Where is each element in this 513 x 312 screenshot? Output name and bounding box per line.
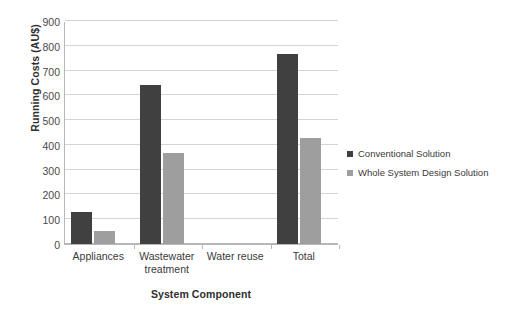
legend-item[interactable]: Conventional Solution [347,145,511,162]
y-axis-tick-label: 200 [26,190,60,201]
bar[interactable] [94,231,115,244]
x-axis-category-label: Wastewatertreatment [133,250,202,276]
bar-group [202,22,271,244]
y-axis-tick-label: 400 [26,141,60,152]
gridline [65,20,338,21]
y-axis-tick-label: 800 [26,42,60,53]
y-axis-tick-label: 900 [26,17,60,28]
y-axis-tick-label: 600 [26,91,60,102]
legend-item[interactable]: Whole System Design Solution [347,164,511,181]
x-axis-category-labels: AppliancesWastewatertreatmentWater reuse… [64,250,338,290]
x-axis-tick [339,245,340,249]
bar[interactable] [277,54,298,244]
bar-group [134,22,203,244]
chart-legend: Conventional SolutionWhole System Design… [347,145,511,183]
bars-layer [65,22,338,244]
bar[interactable] [300,138,321,244]
y-axis-tick-label: 500 [26,116,60,127]
x-axis-category-label-line: Water reuse [201,250,270,263]
y-axis-tick-label: 100 [26,215,60,226]
x-axis-category-label: Total [270,250,339,263]
y-axis-tick-label: 300 [26,166,60,177]
y-axis-tick-labels: 9008007006005004003002001000 [26,14,60,254]
x-axis-category-label-line: Total [270,250,339,263]
x-axis-category-label-line: Wastewater [133,250,202,263]
x-axis-tick [202,245,203,249]
bar[interactable] [140,85,161,244]
bar-chart: Running Costs (AU$) 90080070060050040030… [0,0,513,312]
x-axis-category-label-line: Appliances [64,250,133,263]
bar-group [271,22,340,244]
bar[interactable] [163,153,184,244]
x-axis-tick [134,245,135,249]
bar[interactable] [71,212,92,244]
legend-swatch-icon [347,151,353,157]
legend-swatch-icon [347,170,353,176]
legend-label: Conventional Solution [358,148,450,159]
plot-area [64,22,338,245]
bar-group [65,22,134,244]
legend-label: Whole System Design Solution [358,167,488,178]
x-axis-tick [271,245,272,249]
y-axis-tick-label: 0 [26,240,60,251]
x-axis-category-label: Water reuse [201,250,270,263]
x-axis-category-label: Appliances [64,250,133,263]
x-axis-category-label-line: treatment [133,263,202,276]
y-axis-tick-label: 700 [26,67,60,78]
x-axis-title: System Component [64,288,338,300]
